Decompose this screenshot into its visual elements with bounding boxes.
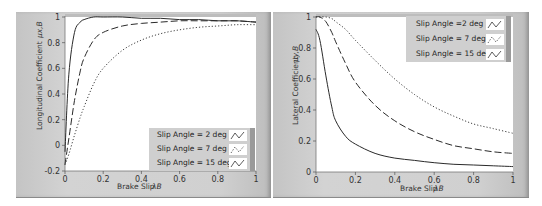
x-tick-label: 1 [510,176,515,185]
x-axis-title: Brake Slip [117,182,155,191]
legend: Slip Angle = 2 deg Slip Angle = 7 deg Sl… [149,128,255,171]
legend-label-15deg: Slip Angle = 15 deg [157,158,232,167]
legend-swatch-15deg [229,158,247,169]
y-tick-label: 0.8 [298,44,311,53]
y-tick-label: 0.4 [298,106,311,115]
legend-swatch-7deg [229,144,247,155]
x-tick-label: 0.6 [173,175,186,184]
x-tick-label: 0 [62,175,67,184]
legend-label-7deg: Slip Angle = 7 deg [416,34,486,43]
y-axis-title: Lateral Coefficient [291,56,300,125]
y-tick-label: 0.6 [47,64,60,73]
y-tick-label: 1 [55,13,60,22]
x-tick-label: 0 [313,176,318,185]
legend-swatch-15deg [486,49,504,60]
legend-swatch-2deg [486,19,504,30]
lateral-chart: 00.20.40.60.81 00.20.40.60.81 Lateral Co… [291,13,516,193]
y-axis-ticks: 00.20.40.60.81 [298,13,316,177]
legend-swatch-7deg [486,34,504,45]
y-tick-label: 0.4 [47,90,60,99]
x-axis-symbol: λB [151,182,162,191]
y-axis-symbol: μy,B [291,46,300,63]
y-tick-label: 0 [55,141,60,150]
legend-label-15deg: Slip Angle = 15 deg [416,49,491,58]
x-axis-title: Brake Slip [400,184,438,193]
legend: Slip Angle =2 deg Slip Angle = 7 deg Sli… [406,16,511,62]
x-axis-symbol: λB [433,184,444,193]
legend-swatch-2deg [229,130,247,141]
y-tick-label: 0 [306,168,311,177]
x-tick-label: 0.8 [211,175,224,184]
longitudinal-chart: -0.200.20.40.60.81 00.20.40.60.81 Longit… [35,13,259,191]
y-tick-label: 0.2 [47,116,60,125]
y-axis-symbol: μx,B [35,21,44,39]
legend-label-2deg: Slip Angle = 2 deg [157,130,227,139]
y-tick-label: 0.2 [298,137,311,146]
charts-canvas: -0.200.20.40.60.81 00.20.40.60.81 Longit… [0,0,542,206]
legend-label-2deg: Slip Angle =2 deg [416,19,484,28]
y-tick-label: 0.6 [298,75,311,84]
x-tick-label: 0.8 [467,176,480,185]
x-tick-label: 0.2 [349,176,362,185]
y-tick-label: 0.8 [47,39,60,48]
y-axis-ticks: -0.200.20.40.60.81 [44,13,65,176]
y-tick-label: -0.2 [44,167,60,176]
legend-label-7deg: Slip Angle = 7 deg [157,144,227,153]
x-tick-label: 0.2 [97,175,110,184]
y-tick-label: 1 [306,13,311,22]
y-axis-title: Longitudinal Coefficient [35,41,44,130]
x-tick-label: 1 [253,175,258,184]
